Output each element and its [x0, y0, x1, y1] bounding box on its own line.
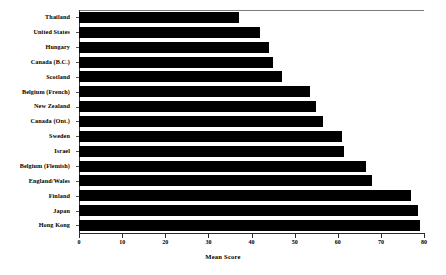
category-label: Canada (Ont.) — [0, 114, 74, 129]
bar — [79, 116, 323, 127]
x-tick-mark — [424, 234, 425, 238]
bar — [79, 131, 342, 142]
category-tick — [76, 136, 79, 137]
x-tick-mark — [165, 234, 166, 238]
bar-row — [79, 40, 424, 55]
x-tick-mark — [122, 234, 123, 238]
x-tick-label: 60 — [335, 239, 341, 245]
bar — [79, 42, 269, 53]
x-tick-label: 10 — [119, 239, 125, 245]
bar — [79, 12, 239, 23]
x-tick-label: 80 — [421, 239, 427, 245]
bar-chart: Thailand United States Hungary Canada (B… — [0, 0, 446, 275]
bar — [79, 27, 260, 38]
x-tick-label: 0 — [78, 239, 81, 245]
category-label: Hungary — [0, 40, 74, 55]
bar — [79, 57, 273, 68]
category-tick — [76, 62, 79, 63]
category-tick — [76, 92, 79, 93]
category-tick — [76, 17, 79, 18]
category-label: Belgium (Flemish) — [0, 159, 74, 174]
category-label: Canada (B.C.) — [0, 55, 74, 70]
plot-area — [79, 10, 424, 233]
bar-row — [79, 114, 424, 129]
x-tick-label: 40 — [249, 239, 255, 245]
category-tick — [76, 225, 79, 226]
category-label: Japan — [0, 203, 74, 218]
category-tick — [76, 211, 79, 212]
bars-container — [79, 10, 424, 233]
x-tick-label: 30 — [205, 239, 211, 245]
category-label: Hong Kong — [0, 218, 74, 233]
category-tick — [76, 166, 79, 167]
category-tick — [76, 151, 79, 152]
bar — [79, 205, 418, 216]
x-tick-mark — [338, 234, 339, 238]
bar-row — [79, 173, 424, 188]
x-tick-mark — [208, 234, 209, 238]
bar-row — [79, 129, 424, 144]
x-tick-label: 20 — [162, 239, 168, 245]
category-label: Israel — [0, 144, 74, 159]
category-label: New Zealand — [0, 99, 74, 114]
bar-row — [79, 203, 424, 218]
bar — [79, 175, 372, 186]
x-tick-mark — [381, 234, 382, 238]
category-label: Finland — [0, 188, 74, 203]
category-tick — [76, 47, 79, 48]
x-tick-mark — [295, 234, 296, 238]
category-label: Thailand — [0, 10, 74, 25]
bar-row — [79, 10, 424, 25]
x-tick-label: 70 — [378, 239, 384, 245]
bar-row — [79, 55, 424, 70]
x-tick-mark — [252, 234, 253, 238]
bar — [79, 161, 366, 172]
category-tick — [76, 32, 79, 33]
category-label: Sweden — [0, 129, 74, 144]
category-tick — [76, 196, 79, 197]
bar — [79, 220, 420, 231]
x-axis-title: Mean Score — [0, 253, 446, 260]
category-label: Belgium (French) — [0, 84, 74, 99]
bar-row — [79, 99, 424, 114]
category-label: Scotland — [0, 69, 74, 84]
bar — [79, 101, 316, 112]
category-tick — [76, 121, 79, 122]
category-tick — [76, 181, 79, 182]
x-tick-label: 50 — [292, 239, 298, 245]
bar-row — [79, 25, 424, 40]
category-label: England/Wales — [0, 173, 74, 188]
bar-row — [79, 69, 424, 84]
bar — [79, 146, 344, 157]
category-tick — [76, 77, 79, 78]
bar-row — [79, 159, 424, 174]
bar-row — [79, 188, 424, 203]
category-label: United States — [0, 25, 74, 40]
category-tick — [76, 107, 79, 108]
bar-row — [79, 84, 424, 99]
bar — [79, 71, 282, 82]
x-axis-ticks: 01020304050607080 — [79, 234, 425, 252]
bar — [79, 190, 411, 201]
bar — [79, 86, 310, 97]
bar-row — [79, 144, 424, 159]
x-tick-mark — [79, 234, 80, 238]
category-axis-labels: Thailand United States Hungary Canada (B… — [0, 10, 74, 233]
bar-row — [79, 218, 424, 233]
